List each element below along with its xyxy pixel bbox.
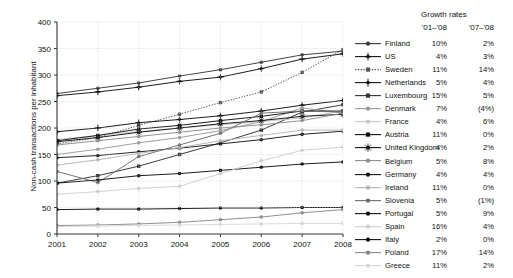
svg-text:2002: 2002 [89,240,107,249]
growth-01-08-value: 11% [407,65,447,74]
legend-item-label: Ireland [385,183,408,192]
svg-text:300: 300 [38,71,52,80]
legend-item[interactable]: US4%3% [352,50,513,63]
legend-marker-icon [354,141,382,154]
svg-text:2008: 2008 [334,240,352,249]
legend-marker-icon [354,220,382,233]
line-chart [57,22,343,234]
growth-01-08-value: 7% [407,104,447,113]
legend-marker-icon [354,115,382,128]
growth-01-08-value: 11% [407,261,447,270]
legend-item[interactable]: France4%6% [352,115,513,128]
legend-marker-icon [354,102,382,115]
growth-07-08-value: 0% [454,235,494,244]
growth-07-08-value: 0% [454,130,494,139]
growth-01-08-value: 4% [407,52,447,61]
growth-01-08-value: 5% [407,157,447,166]
legend-item[interactable]: Greece11%2% [352,259,513,272]
legend-item[interactable]: Spain16%4% [352,220,513,233]
legend-col-07-08: '07–'08 [454,23,494,32]
growth-07-08-value: 4% [454,78,494,87]
growth-07-08-value: (4%) [454,104,494,113]
legend-item[interactable]: Austria11%0% [352,128,513,141]
svg-text:2004: 2004 [171,240,189,249]
legend-title: Growth rates [421,10,467,19]
growth-01-08-value: 15% [407,91,447,100]
legend-col-01-08: '01–'08 [407,23,447,32]
growth-07-08-value: 0% [454,183,494,192]
legend-item[interactable]: Sweden11%14% [352,63,513,76]
legend-marker-icon [354,246,382,259]
growth-07-08-value: 6% [454,117,494,126]
legend-item-label: Poland [385,248,409,257]
y-axis-label: Non-cash transactions per inhabitant [29,32,38,222]
legend-marker-icon [354,50,382,63]
legend-marker-icon [354,37,382,50]
svg-text:250: 250 [38,98,52,107]
legend-item[interactable]: Netherlands5%4% [352,76,513,89]
legend-marker-icon [354,259,382,272]
legend-item[interactable]: Germany4%4% [352,168,513,181]
svg-text:150: 150 [38,151,52,160]
svg-text:200: 200 [38,124,52,133]
legend-item[interactable]: Italy2%0% [352,233,513,246]
legend-item[interactable]: Belgium5%8% [352,154,513,167]
growth-01-08-value: 17% [407,248,447,257]
svg-text:2003: 2003 [130,240,148,249]
legend-item-label: Spain [385,222,404,231]
growth-07-08-value: 14% [454,65,494,74]
series-us [57,51,343,99]
growth-01-08-value: 11% [407,130,447,139]
svg-text:2005: 2005 [212,240,230,249]
svg-text:0: 0 [47,230,52,239]
growth-07-08-value: 5% [454,91,494,100]
series-italy [57,206,343,212]
growth-01-08-value: 11% [407,183,447,192]
legend-marker-icon [354,154,382,167]
growth-01-08-value: 10% [407,39,447,48]
chart-root: Non-cash transactions per inhabitant 050… [0,0,513,278]
svg-text:2001: 2001 [48,240,66,249]
svg-text:400: 400 [38,18,52,27]
legend-marker-icon [354,181,382,194]
growth-07-08-value: 2% [454,39,494,48]
growth-01-08-value: 16% [407,222,447,231]
growth-01-08-value: 2% [407,235,447,244]
legend-item-label: US [385,52,396,61]
growth-01-08-value: 5% [407,196,447,205]
svg-text:50: 50 [42,204,51,213]
legend-marker-icon [354,207,382,220]
growth-01-08-value: 5% [407,78,447,87]
legend-item[interactable]: Slovenia5%(1%) [352,194,513,207]
plot-area [57,22,343,234]
growth-01-08-value: 4% [407,143,447,152]
series-spain [57,145,343,196]
svg-text:100: 100 [38,177,52,186]
growth-07-08-value: 8% [454,157,494,166]
growth-01-08-value: 4% [407,117,447,126]
legend: Growth rates '01–'08 '07–'08 Finland10%2… [352,6,513,261]
legend-marker-icon [354,76,382,89]
growth-07-08-value: 4% [454,170,494,179]
legend-item[interactable]: Ireland11%0% [352,181,513,194]
legend-item[interactable]: Finland10%2% [352,37,513,50]
svg-text:2007: 2007 [293,240,311,249]
legend-marker-icon [354,89,382,102]
series-sweden [57,48,343,146]
legend-item[interactable]: Denmark7%(4%) [352,102,513,115]
legend-marker-icon [354,128,382,141]
growth-07-08-value: (1%) [454,196,494,205]
legend-item[interactable]: Poland17%14% [352,246,513,259]
legend-item[interactable]: Portugal5%9% [352,207,513,220]
growth-01-08-value: 4% [407,170,447,179]
growth-07-08-value: 2% [454,261,494,270]
growth-07-08-value: 9% [454,209,494,218]
growth-07-08-value: 4% [454,222,494,231]
growth-07-08-value: 2% [454,143,494,152]
growth-07-08-value: 14% [454,248,494,257]
legend-marker-icon [354,168,382,181]
legend-item-label: Austria [385,130,409,139]
legend-item[interactable]: Luxembourg15%5% [352,89,513,102]
legend-marker-icon [354,233,382,246]
legend-item[interactable]: United Kingdom4%2% [352,141,513,154]
